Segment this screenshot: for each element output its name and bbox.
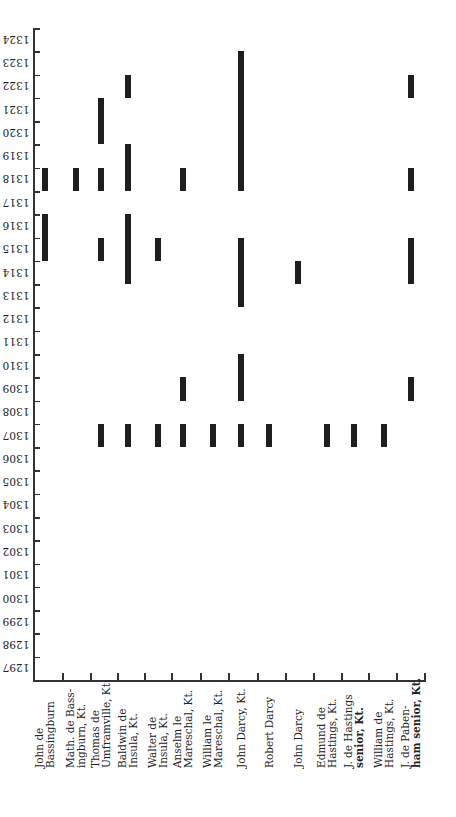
y-tick (33, 331, 40, 333)
y-tick (33, 214, 40, 216)
category-label: Thomas de Umframville, Kt. (90, 688, 112, 768)
category-label-line: Insula, Kt. (127, 713, 139, 768)
category-label: John Darcy, Kt. (236, 688, 247, 768)
category-label: Math. de Bass- ingburn, Kt. (65, 688, 87, 768)
x-tick (424, 673, 426, 680)
y-tick-label: 1315 (1, 243, 31, 255)
range-bar (351, 424, 357, 447)
range-bar (125, 144, 131, 191)
y-tick (33, 470, 40, 472)
y-tick (33, 98, 40, 100)
range-bar (408, 168, 414, 191)
range-bar (98, 238, 104, 261)
range-bar (238, 238, 244, 308)
x-tick (257, 673, 259, 680)
range-bar (155, 238, 161, 261)
y-tick-label: 1314 (1, 267, 31, 279)
category-label: Baldwin de Insula, Kt. (117, 688, 139, 768)
category-label: John de Bassingburn (34, 688, 56, 768)
x-tick (90, 673, 92, 680)
y-tick-label: 1303 (1, 523, 31, 535)
y-tick-label: 1318 (1, 173, 31, 185)
y-tick (33, 168, 40, 170)
category-label-line: Mareschal, Kt. (212, 690, 224, 768)
range-bar (98, 424, 104, 447)
category-label-line: Mareschal, Kt. (182, 690, 194, 768)
range-bar (408, 238, 414, 285)
category-label-line: Hastings, Kt. (326, 699, 338, 768)
range-bar (125, 75, 131, 98)
range-bar (42, 214, 48, 261)
y-tick-label: 1324 (1, 34, 31, 46)
y-tick-label: 1310 (1, 360, 31, 372)
y-tick (33, 121, 40, 123)
y-tick (33, 633, 40, 635)
range-bar (381, 424, 387, 447)
category-label: J. de Hastings senior, Kt. (343, 688, 365, 768)
y-tick (33, 494, 40, 496)
x-tick (228, 673, 230, 680)
category-label-line: John Darcy (292, 709, 304, 768)
range-bar (210, 424, 216, 447)
y-tick-label: 1323 (1, 57, 31, 69)
y-tick-label: 1306 (1, 453, 31, 465)
range-bar (155, 424, 161, 447)
x-tick (171, 673, 173, 680)
y-tick (33, 540, 40, 542)
y-tick (33, 587, 40, 589)
category-label-line: ingburn, Kt. (75, 704, 87, 768)
y-axis-top-cap (33, 28, 40, 30)
y-tick-label: 1297 (1, 662, 31, 674)
y-tick-label: 1316 (1, 220, 31, 232)
y-tick-label: 1321 (1, 104, 31, 116)
y-tick (33, 657, 40, 659)
range-bar (98, 168, 104, 191)
range-bar (125, 214, 131, 284)
y-tick (33, 238, 40, 240)
y-tick (33, 377, 40, 379)
range-bar (42, 168, 48, 191)
y-tick-label: 1313 (1, 290, 31, 302)
range-bar (98, 98, 104, 145)
category-label-line: Umframville, Kt. (100, 680, 112, 768)
range-bar (180, 424, 186, 447)
y-tick (33, 51, 40, 53)
x-tick (341, 673, 343, 680)
category-label: William de Hastings, Kt. (373, 688, 395, 768)
y-tick (33, 261, 40, 263)
category-label-line: ham senior, Kt. (410, 678, 422, 768)
y-tick-label: 1307 (1, 430, 31, 442)
category-label: J. de Paben- ham senior, Kt. (400, 688, 422, 768)
y-tick (33, 447, 40, 449)
range-bar (180, 168, 186, 191)
y-tick-label: 1309 (1, 383, 31, 395)
y-tick-label: 1322 (1, 80, 31, 92)
y-tick (33, 401, 40, 403)
range-bar (125, 424, 131, 447)
y-tick (33, 144, 40, 146)
category-label-line: John Darcy, Kt. (235, 688, 247, 768)
category-label-line: Hastings, Kt. (383, 699, 395, 768)
category-label: John Darcy (293, 688, 304, 768)
range-bar (180, 377, 186, 400)
y-tick (33, 564, 40, 566)
range-bar (408, 377, 414, 400)
category-label: Robert Darcy (264, 688, 275, 768)
y-tick (33, 354, 40, 356)
x-tick (200, 673, 202, 680)
y-tick-label: 1298 (1, 639, 31, 651)
y-tick (33, 75, 40, 77)
y-tick-label: 1302 (1, 546, 31, 558)
y-tick-label: 1317 (1, 197, 31, 209)
y-tick-label: 1312 (1, 313, 31, 325)
x-tick (285, 673, 287, 680)
range-bar (266, 424, 272, 447)
y-tick-label: 1308 (1, 406, 31, 418)
y-tick-label: 1304 (1, 499, 31, 511)
x-tick (313, 673, 315, 680)
x-tick (62, 673, 64, 680)
y-tick (33, 517, 40, 519)
x-tick (396, 673, 398, 680)
range-bar (324, 424, 330, 447)
x-axis-line (33, 680, 426, 682)
